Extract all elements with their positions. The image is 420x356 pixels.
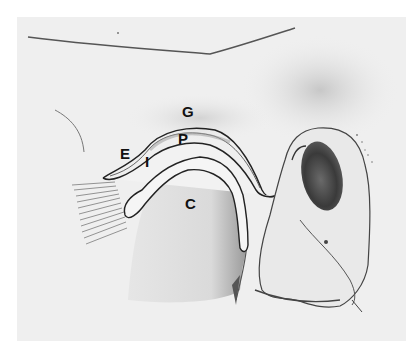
label-c: C (185, 196, 196, 211)
muscle-fibers (72, 182, 127, 244)
label-e: E (120, 146, 130, 161)
tmj-illustration (0, 0, 420, 356)
label-p: P (178, 131, 188, 146)
label-g: G (182, 104, 194, 119)
skull-contour-line (28, 28, 295, 54)
label-i: I (145, 154, 149, 169)
